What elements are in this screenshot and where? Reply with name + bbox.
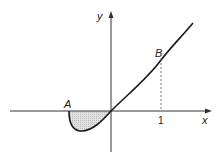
- y-axis-arrow-icon: [109, 11, 114, 18]
- point-a-label: A: [63, 98, 71, 110]
- x-axis-label: x: [201, 114, 208, 126]
- shaded-region: [69, 111, 111, 131]
- point-b-label: B: [155, 47, 162, 59]
- x-axis-arrow-icon: [205, 109, 212, 114]
- graph-canvas: A B y x 1: [0, 0, 217, 158]
- y-axis-label: y: [96, 10, 104, 22]
- x-tick-label-1: 1: [158, 115, 164, 126]
